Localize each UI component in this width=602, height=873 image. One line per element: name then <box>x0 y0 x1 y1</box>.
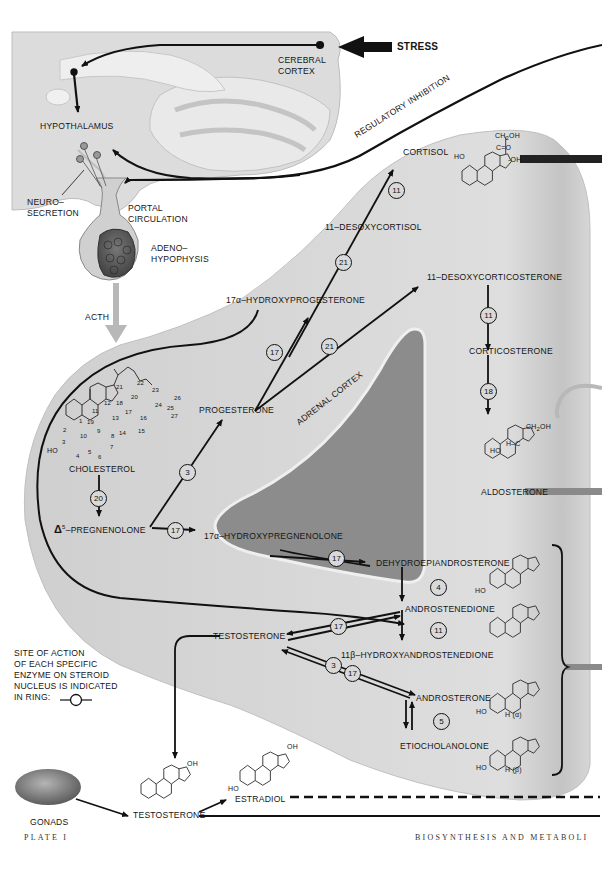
struct-androsterone-ho: HO <box>476 708 487 715</box>
carbon-7: 7 <box>110 444 114 450</box>
carbon-15: 15 <box>138 428 145 434</box>
compound-testosterone-gonadal: TESTOSTERONE <box>133 811 205 820</box>
struct-androsterone-h-alpha: H (α) <box>505 711 522 718</box>
struct-estradiol-ho: HO <box>228 785 239 792</box>
struct-cortisol-ho: HO <box>454 153 465 160</box>
cortisol-output-bar <box>520 155 602 163</box>
label-acth: ACTH <box>85 313 109 322</box>
carbon-20: 20 <box>131 394 138 400</box>
compound-estradiol: ESTRADIOL <box>235 795 286 804</box>
compound-testosterone-adrenal: TESTOSTERONE <box>213 632 285 641</box>
carbon-10: 10 <box>80 433 87 439</box>
carbon-19: 19 <box>87 419 94 425</box>
carbon-8: 8 <box>111 433 115 439</box>
enzyme-ring-20-pregnenolone: 20 <box>90 490 107 507</box>
compound-pregnenolone: Δ5–PREGNENOLONE <box>54 524 146 535</box>
carbon-6: 6 <box>98 454 102 460</box>
carbon-2: 2 <box>63 427 67 433</box>
enzyme-ring-17-testosterone: 17 <box>330 618 347 635</box>
carbon-11: 11 <box>92 408 99 414</box>
compound-corticosterone: CORTICOSTERONE <box>469 347 553 356</box>
label-neurosecretion: NEURO– SECRETION <box>27 197 79 219</box>
label-portal-circulation: PORTAL CIRCULATION <box>128 203 188 225</box>
carbon-18: 18 <box>116 400 123 406</box>
compound-androsterone: ANDROSTERONE <box>416 694 491 703</box>
legend-ring-icon <box>60 693 92 707</box>
struct-cholesterol-ho: HO <box>47 447 58 454</box>
struct-estradiol-oh: OH <box>287 743 298 750</box>
compound-17a-hydroxyprogesterone: 17α–HYDROXYPROGESTERONE <box>226 296 365 305</box>
struct-etiocholanolone-ho: HO <box>476 764 487 771</box>
carbon-1: 1 <box>79 418 83 424</box>
enzyme-ring-17-hydroxypregnenolone: 17 <box>167 522 184 539</box>
carbon-16: 16 <box>140 415 147 421</box>
androgen-output-bar <box>566 664 602 670</box>
carbon-23: 23 <box>152 387 159 393</box>
enzyme-ring-11-cortisol: 11 <box>388 182 405 199</box>
carbon-25: 25 <box>167 405 174 411</box>
label-cerebral-cortex: CEREBRAL CORTEX <box>278 55 326 77</box>
carbon-5: 5 <box>88 449 92 455</box>
enzyme-ring-21-desoxycorticosterone: 21 <box>321 338 338 355</box>
stress-arrow <box>338 36 392 58</box>
struct-etiocholanolone-h-beta: H (β) <box>505 766 522 773</box>
label-stress: STRESS <box>397 42 438 52</box>
compound-aldosterone: ALDOSTERONE <box>481 488 548 497</box>
enzyme-ring-11-hydroxyandrostenedione: 11 <box>430 622 447 639</box>
carbon-9: 9 <box>97 428 101 434</box>
plate-label: PLATE I <box>24 834 68 842</box>
struct-aldosterone-hc: H–C <box>506 440 521 447</box>
enzyme-ring-4-androstenedione: 4 <box>430 579 447 596</box>
compound-17a-hydroxypregnenolone: 17α–HYDROXYPREGNENOLONE <box>204 532 343 541</box>
enzyme-ring-17-androsterone: 17 <box>344 665 361 682</box>
carbon-24: 24 <box>155 402 162 408</box>
label-gonads: GONADS <box>30 818 68 827</box>
compound-11b-hydroxyandrostenedione: 11β–HYDROXYANDROSTENEDIONE <box>341 651 494 660</box>
gonads-illustration <box>15 769 81 805</box>
page-caption: BIOSYNTHESIS AND METABOLI <box>415 834 588 842</box>
compound-11-desoxycorticosterone: 11–DESOXYCORTICOSTERONE <box>427 273 562 282</box>
label-adenohypophysis: ADENO– HYPOPHYSIS <box>151 243 209 265</box>
compound-dehydroepiandrosterone: DEHYDROEPIANDROSTERONE <box>376 559 510 568</box>
enzyme-ring-17-dhea: 17 <box>328 550 345 567</box>
struct-cortisol-oh: -OH <box>508 156 521 163</box>
carbon-3: 3 <box>62 439 66 445</box>
enzyme-ring-5-etiocholanolone: 5 <box>433 713 450 730</box>
enzyme-ring-11-corticosterone: 11 <box>480 307 497 324</box>
struct-testosterone-oh: OH <box>187 760 198 767</box>
enzyme-ring-3-androsterone: 3 <box>325 657 342 674</box>
carbon-21: 21 <box>116 384 123 390</box>
struct-aldosterone-ch2oh: CH2OH <box>526 423 551 432</box>
carbon-4: 4 <box>76 453 80 459</box>
carbon-27: 27 <box>171 413 178 419</box>
compound-cortisol: CORTISOL <box>403 148 448 157</box>
carbon-26: 26 <box>174 395 181 401</box>
label-hypothalamus: HYPOTHALAMUS <box>40 122 114 131</box>
enzyme-ring-21-desoxycortisol: 21 <box>335 254 352 271</box>
enzyme-ring-3-progesterone: 3 <box>179 464 196 481</box>
enzyme-ring-18-aldosterone: 18 <box>480 383 497 400</box>
carbon-14: 14 <box>119 430 126 436</box>
compound-cholesterol: CHOLESTEROL <box>69 465 135 474</box>
enzyme-ring-17-hydroxyprogesterone: 17 <box>266 344 283 361</box>
carbon-22: 22 <box>137 380 144 386</box>
struct-cortisol-co: C=O <box>496 144 511 151</box>
struct-cortisol-ch2oh: CH2OH <box>495 132 520 141</box>
carbon-13: 13 <box>112 415 119 421</box>
struct-aldosterone-ho: HO <box>490 447 501 454</box>
struct-dhea-ho: HO <box>475 587 486 594</box>
compound-androstenedione: ANDROSTENEDIONE <box>405 605 495 614</box>
compound-11-desoxycortisol: 11–DESOXYCORTISOL <box>325 223 422 232</box>
steroid-biosynthesis-plate: CEREBRAL CORTEX STRESS HYPOTHALAMUS NEUR… <box>0 0 602 873</box>
compound-etiocholanolone: ETIOCHOLANOLONE <box>400 742 489 751</box>
compound-progesterone: PROGESTERONE <box>199 406 274 415</box>
carbon-12: 12 <box>104 400 111 406</box>
carbon-17: 17 <box>125 409 132 415</box>
